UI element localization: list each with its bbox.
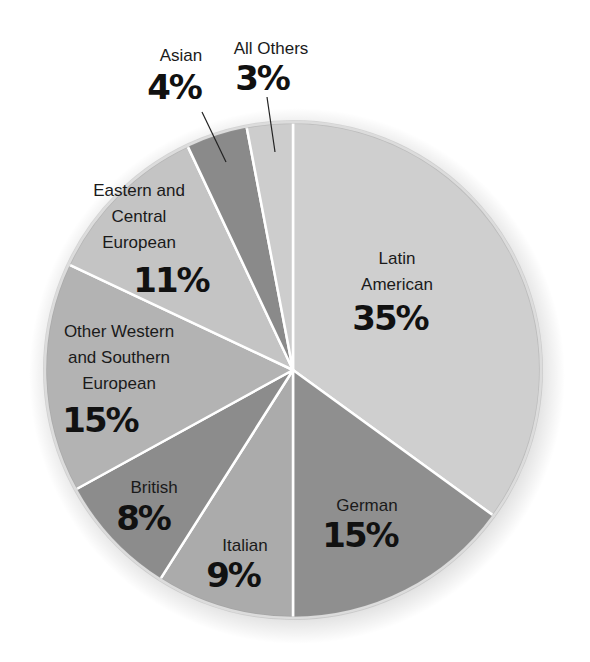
svg-text:15%: 15% [322,515,398,555]
svg-text:Central: Central [112,207,167,226]
svg-text:8%: 8% [116,498,171,538]
svg-text:European: European [102,233,176,252]
slice-label-all-others: All Others 3% [234,39,309,98]
svg-text:All Others: All Others [234,39,309,58]
svg-text:35%: 35% [352,298,428,338]
svg-text:Eastern and: Eastern and [93,181,185,200]
svg-text:American: American [361,275,433,294]
svg-text:3%: 3% [235,58,290,98]
svg-text:11%: 11% [133,260,209,300]
slice-label-asian: Asian 4% [147,46,202,107]
svg-text:Asian: Asian [160,46,203,65]
pie-chart: Latin American 35% German 15% Italian 9%… [0,0,590,662]
svg-text:European: European [82,374,156,393]
svg-text:Other Western: Other Western [64,322,174,341]
svg-text:9%: 9% [206,555,261,595]
svg-text:and Southern: and Southern [68,348,170,367]
svg-text:Latin: Latin [379,249,416,268]
svg-text:4%: 4% [147,67,202,107]
svg-text:British: British [130,478,177,497]
svg-text:German: German [336,496,397,515]
svg-text:15%: 15% [62,400,138,440]
svg-text:Italian: Italian [222,536,267,555]
